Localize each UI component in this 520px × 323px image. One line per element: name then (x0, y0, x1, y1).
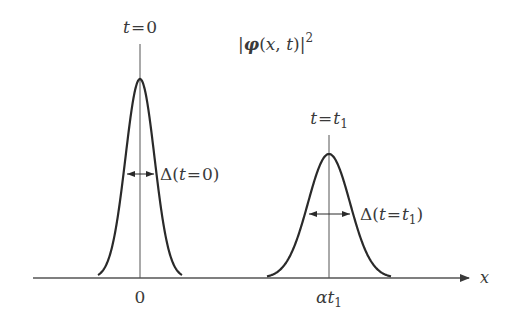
tick-label-alpha-t1: αt1 (316, 287, 342, 310)
packet2-width-label: Δ(t=t1) (360, 204, 423, 227)
wave-packet-diagram: x t=0 t=t1 |φ(x, t)|2 Δ(t=0) Δ(t=t1) 0 α… (0, 0, 520, 323)
tick-label-zero: 0 (135, 287, 146, 307)
probability-density-label: |φ(x, t)|2 (238, 31, 313, 54)
packet2-time-label: t=t1 (310, 108, 348, 131)
packet1-width-label: Δ(t=0) (160, 164, 219, 184)
packet1-time-label: t=0 (123, 17, 157, 37)
x-axis-label: x (480, 268, 489, 287)
